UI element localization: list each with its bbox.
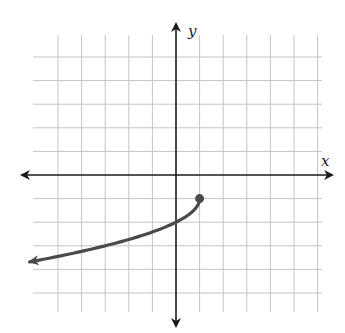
function-curve (30, 199, 200, 262)
y-axis-label: y (187, 22, 197, 40)
closed-endpoint-dot (195, 194, 204, 203)
x-axis-label: x (321, 152, 330, 170)
coordinate-graph: x y (0, 0, 345, 333)
grid-lines (33, 35, 322, 312)
